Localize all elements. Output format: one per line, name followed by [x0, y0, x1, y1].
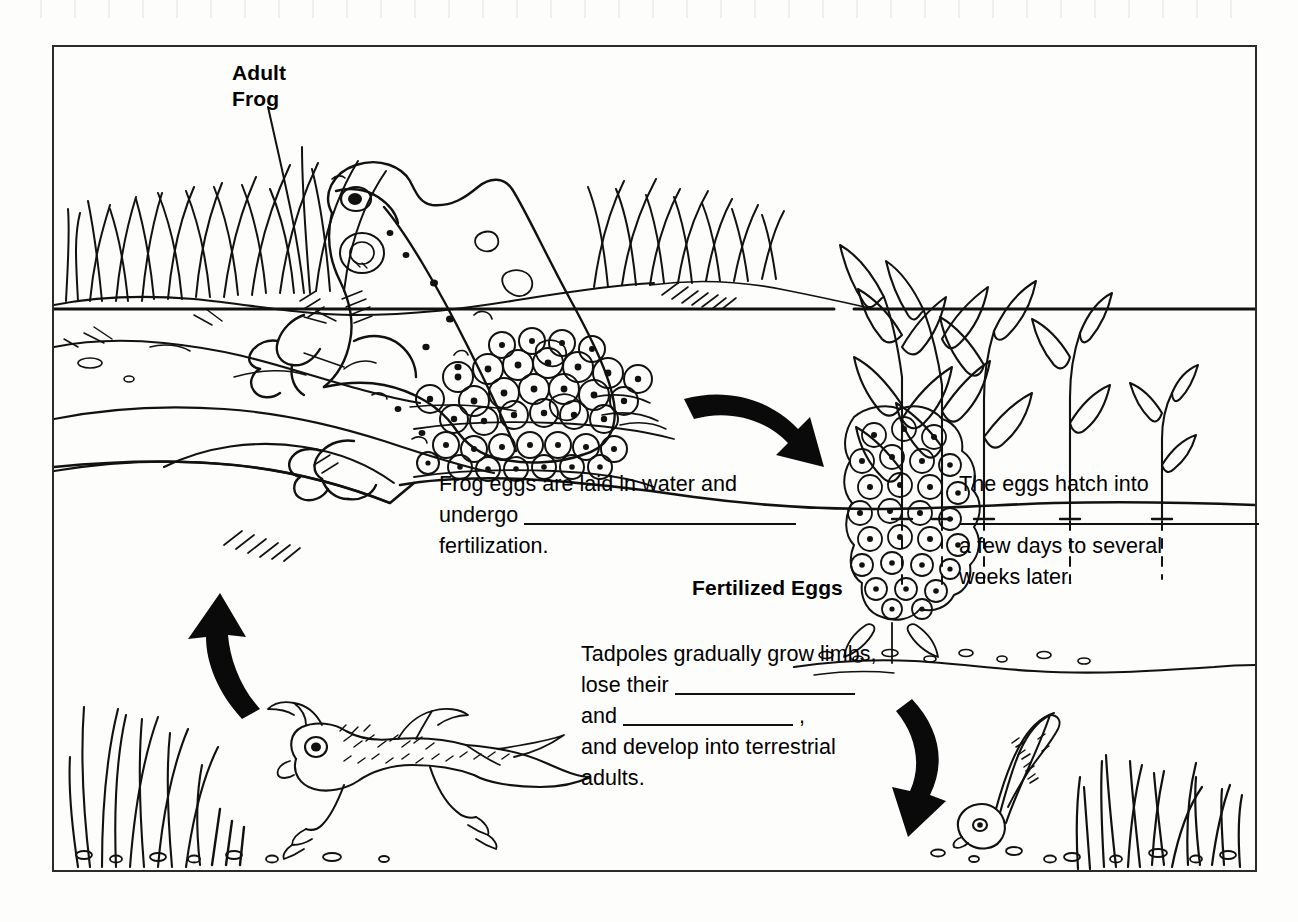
underwater-grass-illustration	[1077, 755, 1242, 869]
arrow-fertilized-eggs-to-tadpole	[892, 699, 946, 837]
worksheet-page: Adult Frog Frog eggs are laid in water a…	[0, 0, 1298, 922]
left-underwater-grass-illustration	[69, 707, 244, 867]
arrow-froglet-to-adult-frog	[188, 593, 260, 719]
caption-text: undergo	[439, 503, 524, 527]
answer-blank[interactable]	[959, 523, 1259, 525]
figure-frame: Adult Frog Frog eggs are laid in water a…	[52, 45, 1257, 872]
scan-ghost-text-band	[40, 0, 1250, 18]
caption-line: and ,	[581, 701, 876, 732]
caption-line: fertilization.	[439, 531, 796, 562]
caption-line	[959, 500, 1259, 531]
egg-mass-illustration	[410, 328, 674, 487]
caption-line: lose their	[581, 670, 876, 701]
caption-text: lose their	[581, 673, 675, 697]
caption-line: weeks later.	[959, 562, 1259, 593]
answer-blank[interactable]	[675, 693, 855, 695]
froglet-illustration	[268, 702, 590, 859]
caption-text: and	[581, 704, 623, 728]
caption-line: a few days to several	[959, 531, 1259, 562]
bank-grass-illustration	[66, 107, 784, 301]
caption-line: adults.	[581, 763, 876, 794]
tadpole-illustration	[953, 713, 1059, 848]
arrow-eggs-to-fertilized-eggs	[684, 394, 824, 467]
caption-line: The eggs hatch into	[959, 469, 1259, 500]
caption-eggs-hatch: The eggs hatch into a few days to severa…	[959, 469, 1259, 593]
caption-text: ,	[793, 704, 805, 728]
caption-line: Frog eggs are laid in water and	[439, 469, 796, 500]
answer-blank[interactable]	[524, 523, 796, 525]
caption-line: and develop into terrestrial	[581, 732, 876, 763]
fertilized-eggs-label: Fertilized Eggs	[692, 575, 843, 601]
adult-frog-illustration	[249, 162, 658, 500]
caption-line: undergo	[439, 500, 796, 531]
caption-line: Tadpoles gradually grow limbs,	[581, 639, 876, 670]
answer-blank[interactable]	[623, 724, 793, 726]
caption-tadpoles-grow: Tadpoles gradually grow limbs, lose thei…	[581, 639, 876, 794]
caption-eggs-laid: Frog eggs are laid in water and undergo …	[439, 469, 796, 562]
adult-frog-label: Adult Frog	[232, 60, 286, 112]
